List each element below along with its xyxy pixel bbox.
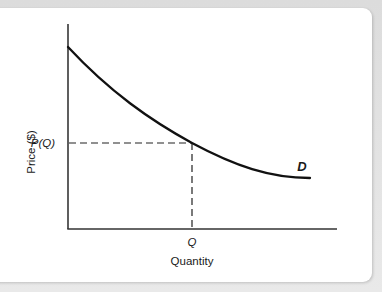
price-tick-label: P(Q)	[31, 137, 55, 149]
x-axis-label: Quantity	[171, 255, 214, 267]
demand-curve	[68, 47, 310, 178]
curve-label-d: D	[297, 159, 307, 174]
demand-chart: Price ($) P(Q) Q Quantity D	[0, 0, 382, 292]
quantity-tick-label: Q	[188, 236, 197, 248]
